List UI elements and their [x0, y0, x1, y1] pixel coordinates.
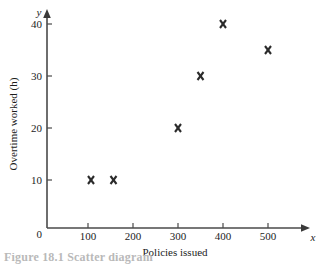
- data-point-marker: [198, 72, 204, 80]
- x-tick-label-200: 200: [125, 230, 142, 242]
- x-tick-label-400: 400: [215, 230, 232, 242]
- data-point-marker: [175, 124, 181, 132]
- data-point-series: [88, 20, 271, 184]
- x-axis-arrow-icon: [301, 224, 310, 232]
- x-tick-label-100: 100: [80, 230, 97, 242]
- y-tick-label-20: 20: [31, 122, 43, 134]
- y-tick-label-10: 10: [31, 174, 43, 186]
- data-point-marker: [111, 176, 117, 184]
- y-axis-title: Overtime worked (h): [7, 77, 20, 170]
- x-axis-symbol: x: [310, 231, 316, 243]
- x-tick-label-500: 500: [260, 230, 277, 242]
- figure-caption-strip: Figure 18.1 Scatter diagram: [0, 253, 322, 265]
- data-point-marker: [220, 20, 226, 28]
- data-point-marker: [88, 176, 94, 184]
- y-tick-label-30: 30: [31, 70, 43, 82]
- data-point-marker: [265, 46, 271, 54]
- origin-label: 0: [37, 228, 43, 240]
- scatter-plot-canvas: 40 30 20 10 0 100 200 300 400 500 y x Po…: [0, 0, 322, 265]
- y-tick-label-40: 40: [31, 18, 43, 30]
- scatter-chart-figure: 40 30 20 10 0 100 200 300 400 500 y x Po…: [0, 0, 322, 265]
- y-axis-symbol: y: [36, 6, 42, 18]
- x-tick-label-300: 300: [170, 230, 187, 242]
- figure-caption: Figure 18.1 Scatter diagram: [4, 253, 153, 265]
- y-axis-arrow-icon: [43, 9, 51, 18]
